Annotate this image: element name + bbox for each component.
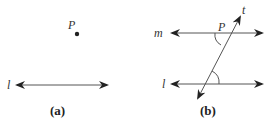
point-p xyxy=(75,32,79,36)
intersection-p-label: P xyxy=(217,20,226,34)
line-l-label-b: l xyxy=(162,77,166,91)
point-p-label: P xyxy=(67,18,76,32)
angle-arc-upper xyxy=(215,33,221,45)
line-l-label-a: l xyxy=(7,78,11,92)
line-m-label: m xyxy=(154,26,163,40)
angle-arc-lower xyxy=(212,71,219,84)
transversal-label: t xyxy=(242,3,246,17)
caption-b: (b) xyxy=(200,103,216,118)
caption-a: (a) xyxy=(50,103,65,118)
figure-a: P l (a) xyxy=(7,18,107,118)
parallel-postulate-diagram: P l (a) m l t P (b) xyxy=(0,0,273,129)
figure-b: m l t P (b) xyxy=(154,3,262,118)
